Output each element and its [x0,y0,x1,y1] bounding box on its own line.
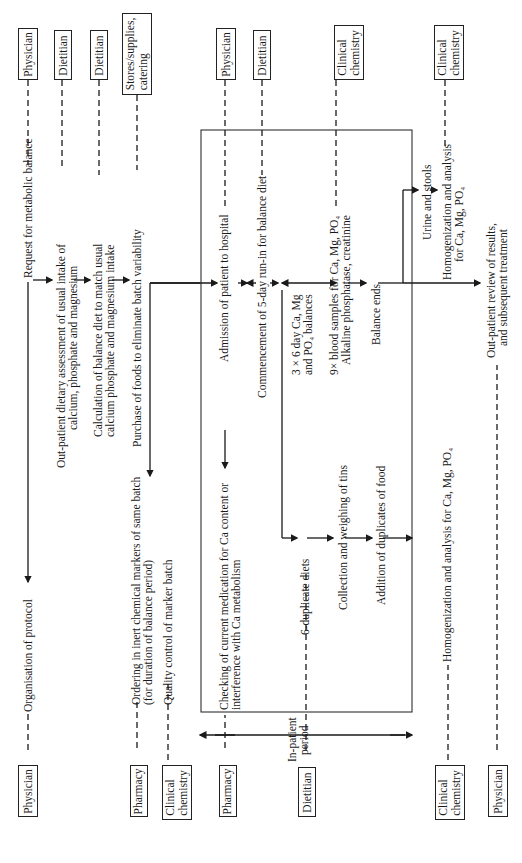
actor-label: Pharmacy [222,768,235,814]
actor-box-dietitian-1: Dietitian [54,30,72,80]
actor-label: Clinical chemistry [164,770,190,815]
step-blood-samples-2: Alkaline phosphatase, creatinine [340,215,353,365]
step-purchase: Purchase of foods to eliminate batch var… [131,229,144,447]
step-review-2: and subsequent treatment [497,229,510,346]
actor-box-physician-review: Physician [488,765,508,817]
actor-label: Dietitian [301,772,314,812]
step-urine-stools: Urine and stools [421,165,434,240]
inpatient-label-2: period [298,726,311,755]
step-organisation: Organisation of protocol [22,599,35,712]
step-collection: Collection and weighing of tins [337,465,350,610]
actor-box-clinical-chem-blood: Clinical chemistry [334,25,364,80]
actor-label: Clinical chemistry [437,770,463,815]
actor-box-clinical-chem-bottom: Clinical chemistry [435,765,465,820]
connector-lines [0,0,522,863]
step-calculation-2: calcium phosphate and magnesium intake [104,245,117,437]
actor-label: Dietitian [256,35,269,75]
actor-box-physician-admission: Physician [216,28,236,80]
actor-box-physician-top: Physician [18,28,38,80]
actor-label: Physician [220,32,233,77]
actor-label: Physician [492,769,505,814]
step-addition: Addition of duplicates of food [375,466,388,605]
actor-label: Pharmacy [133,768,146,814]
actor-box-pharmacy-1: Pharmacy [130,765,148,817]
step-balance-ends: Balance ends [370,284,383,345]
actor-label: Stores/supplies, catering [124,18,150,91]
step-request: Request for metabolic balance [22,138,35,278]
actor-label: Dietitian [93,35,106,75]
step-checking-2: interference with Ca metabolism [230,560,243,710]
step-balances-2: and PO₄ balances [302,294,315,375]
actor-box-physician-bottom: Physician [18,765,38,817]
step-homog-bottom: Homogenization and analysis for Ca, Mg, … [441,448,454,662]
actor-box-clinical-chem-urine: Clinical chemistry [434,25,464,80]
step-outpatient-assessment-2: calcium, phosphate and magnesium [67,266,80,430]
actor-label: Clinical chemistry [336,30,362,75]
actor-label: Clinical chemistry [436,30,462,75]
actor-box-dietitian-2: Dietitian [90,30,108,80]
actor-box-dietitian-bottom: Dietitian [298,767,316,817]
step-commencement: Commencement of 5-day run-in for balance… [256,176,269,398]
step-quality-control: Quality control of marker batch [162,559,175,705]
step-ordering-2: (for duration of balance period) [142,560,155,705]
actor-label: Physician [22,769,35,814]
actor-label: Physician [22,32,35,77]
actor-box-dietitian-commencement: Dietitian [253,30,271,80]
actor-box-stores-catering: Stores/supplies, catering [122,13,152,95]
step-homog-top-2: for Ca, Mg, PO₄ [453,187,466,262]
step-admission: Admission of patient to hospital [218,214,231,362]
actor-label: Dietitian [57,35,70,75]
step-duplicate-diets: 6-duplicate diets [299,559,312,635]
actor-box-clinical-chem-qc: Clinical chemistry [162,765,192,820]
actor-box-pharmacy-2: Pharmacy [219,765,237,817]
